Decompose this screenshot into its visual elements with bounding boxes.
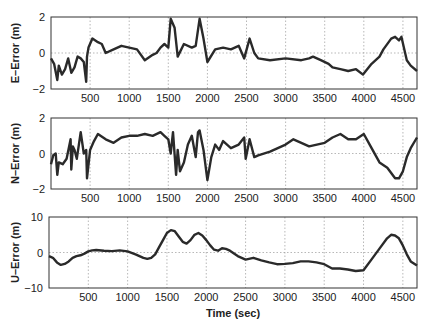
u-error-y-ticks: 10 0 −10	[24, 211, 43, 294]
u-error-line	[49, 230, 417, 271]
x-tick: 3000	[273, 92, 297, 104]
x-tick: 3000	[273, 192, 297, 204]
n-error-y-ticks: 2 0 −2	[32, 112, 45, 195]
y-tick: 10	[31, 211, 43, 223]
e-error-panel: 2 0 −2 500100015002000250030003500400045…	[9, 11, 417, 104]
x-tick: 4500	[391, 92, 415, 104]
y-tick: −2	[32, 83, 45, 95]
x-tick: 2500	[234, 92, 258, 104]
x-tick: 4000	[352, 192, 376, 204]
x-tick: 2000	[194, 291, 218, 303]
x-axis-label: Time (sec)	[206, 307, 261, 319]
y-tick: −2	[32, 183, 45, 195]
x-tick: 1000	[117, 192, 141, 204]
x-tick: 4000	[352, 92, 376, 104]
x-tick: 4000	[351, 291, 375, 303]
y-tick: 2	[39, 112, 45, 124]
y-tick: 0	[39, 148, 45, 160]
u-error-y-label: U–Error (m)	[9, 222, 21, 283]
n-error-panel: 2 0 −2 500100015002000250030003500400045…	[9, 112, 417, 204]
x-tick: 1500	[156, 192, 180, 204]
x-tick: 500	[81, 92, 99, 104]
x-tick: 1000	[117, 92, 141, 104]
x-tick: 2000	[195, 192, 219, 204]
x-tick: 4500	[391, 291, 415, 303]
e-error-y-label: E–Error (m)	[9, 22, 21, 83]
x-tick: 1500	[155, 291, 179, 303]
x-tick: 1500	[156, 92, 180, 104]
u-error-panel: 10 0 −10 5001000150020002500300035004000…	[9, 211, 417, 303]
u-error-x-ticks: 50010001500200025003000350040004500	[79, 291, 415, 303]
figure: 2 0 −2 500100015002000250030003500400045…	[0, 0, 426, 328]
x-tick: 3500	[312, 291, 336, 303]
x-tick: 2500	[233, 291, 257, 303]
y-tick: −10	[24, 282, 43, 294]
n-error-grid	[51, 118, 417, 189]
x-tick: 4500	[391, 192, 415, 204]
x-tick: 2000	[195, 92, 219, 104]
x-tick: 2500	[234, 192, 258, 204]
y-tick: 0	[37, 247, 43, 259]
x-tick: 3500	[312, 192, 336, 204]
y-tick: 2	[39, 11, 45, 23]
n-error-line	[51, 130, 417, 180]
x-tick: 1000	[115, 291, 139, 303]
e-error-y-ticks: 2 0 −2	[32, 11, 45, 95]
x-tick: 3500	[312, 92, 336, 104]
n-error-y-label: N–Error (m)	[9, 123, 21, 184]
x-tick: 3000	[273, 291, 297, 303]
e-error-line	[51, 19, 417, 82]
e-error-x-ticks: 50010001500200025003000350040004500	[81, 92, 415, 104]
y-tick: 0	[39, 47, 45, 59]
x-tick: 500	[79, 291, 97, 303]
x-tick: 500	[81, 192, 99, 204]
n-error-x-ticks: 50010001500200025003000350040004500	[81, 192, 415, 204]
